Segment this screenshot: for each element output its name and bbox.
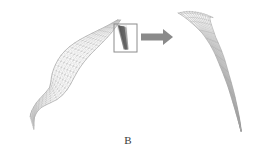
panel-label: B — [0, 134, 256, 147]
figure-background — [0, 0, 256, 156]
figure-graphic — [0, 0, 256, 156]
figure-panel-b: B — [0, 0, 256, 156]
